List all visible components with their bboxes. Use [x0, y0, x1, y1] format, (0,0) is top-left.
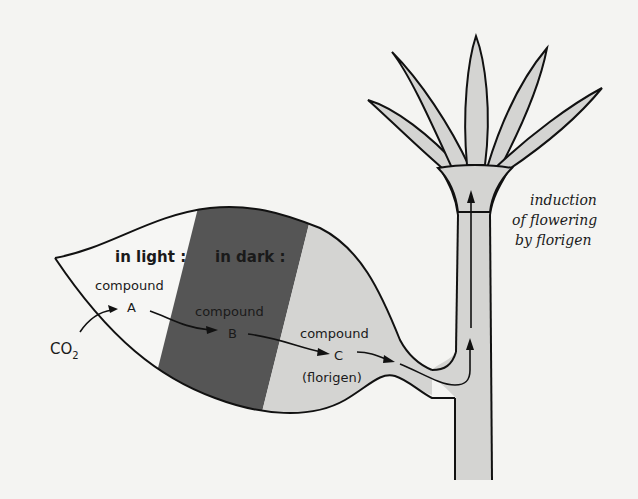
- in-light-label: in light :: [115, 248, 186, 266]
- compound-a-letter: A: [127, 300, 136, 315]
- co2-label: CO2: [50, 340, 79, 361]
- florigen-label: (florigen): [302, 370, 362, 385]
- flower: [368, 36, 602, 212]
- receptacle: [438, 165, 512, 212]
- caption-line-3: by florigen: [515, 232, 592, 248]
- caption-line-1: induction: [530, 192, 597, 208]
- compound-c-label: compound: [300, 326, 369, 341]
- in-dark-label: in dark :: [215, 248, 286, 266]
- compound-b-letter: B: [228, 326, 237, 341]
- petal: [465, 36, 488, 165]
- compound-b-label: compound: [195, 304, 264, 319]
- compound-c-letter: C: [334, 348, 343, 363]
- florigen-diagram: in light : in dark : compound A compound…: [0, 0, 638, 499]
- compound-a-label: compound: [95, 278, 164, 293]
- caption-line-2: of flowering: [512, 212, 597, 228]
